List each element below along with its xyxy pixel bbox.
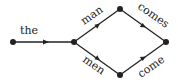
node-top bbox=[117, 6, 123, 12]
edge-label-come: come bbox=[135, 53, 167, 81]
node-end bbox=[163, 39, 169, 45]
lattice-svg: the man men comes come bbox=[0, 0, 178, 84]
edge-label-men: men bbox=[80, 53, 107, 77]
edge-label-man: man bbox=[78, 3, 105, 27]
node-bottom bbox=[117, 72, 123, 78]
node-start bbox=[10, 39, 16, 45]
node-branch bbox=[71, 39, 77, 45]
arrow-icon bbox=[43, 40, 49, 45]
edge-label-the: the bbox=[20, 24, 38, 37]
word-lattice-diagram: the man men comes come bbox=[0, 0, 178, 84]
